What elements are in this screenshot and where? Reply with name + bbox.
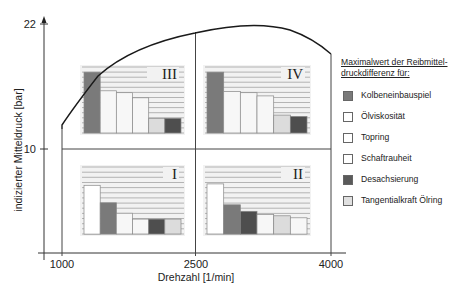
legend-label: Tangentialkraft Ölring [361,195,442,206]
swatch-kolbeneinbauspiel-icon [343,91,353,101]
x-tick-4000: 4000 [319,258,343,270]
panel-label-ii: II [293,166,303,182]
bar-schaftrauheit [133,219,149,234]
legend-label: Kolbeneinbauspiel [361,90,431,101]
bar-kolbeneinbauspiel [84,72,100,133]
legend-label: Desachsierung [361,174,418,185]
bar-desachsierung [240,211,257,234]
x-axis: 1000 2500 4000 Drehzahl [1/min] [38,253,346,283]
bar--lviskosit-t [207,184,224,234]
y-tick-22: 22 [24,18,36,30]
bar-topring [257,215,274,235]
bar-schaftrauheit [257,96,274,133]
legend-title: Maximalwert der Reibmittel- druckdiffere… [341,57,469,78]
legend-label: Schaftrauheit [361,153,412,164]
swatch-tangentialkraft-icon [343,196,353,206]
bar-desachsierung [149,219,165,234]
bar-tangentialkraft-lring [149,118,165,133]
bar-tangentialkraft-lring [274,115,291,133]
swatch-oelviskositaet-icon [343,112,353,122]
swatch-desachsierung-icon [343,175,353,185]
x-tick-2500: 2500 [184,258,208,270]
panel-label-iii: III [162,66,177,82]
legend-label: Ölviskosität [361,111,405,122]
bar-topring [116,93,132,133]
swatch-topring-icon [343,133,353,143]
legend-item-schaftrauheit: Schaftrauheit [341,148,469,169]
legend-item-tangentialkraft-oelring: Tangentialkraft Ölring [341,190,469,211]
legend-label: Topring [361,132,389,143]
legend-item-kolbeneinbauspiel: Kolbeneinbauspiel [341,85,469,106]
bar-kolbeneinbauspiel [207,72,224,133]
y-axis-arrow-icon [42,16,47,23]
bar-tangentialkraft-lring [165,219,181,234]
panel-ii: II [203,165,311,236]
bar-tangentialkraft-lring [274,216,291,234]
legend-title-line1: Maximalwert der Reibmittel- [341,57,469,68]
bar--lviskosit-t [100,91,116,133]
legend-item-desachsierung: Desachsierung [341,169,469,190]
bar--lviskosit-t [84,185,100,234]
y-axis-title: indizierter Mitteldruck [bar] [12,88,24,211]
bar-topring [116,213,132,234]
panel-label-i: I [172,166,177,182]
x-tick-1000: 1000 [50,258,74,270]
bar-desachsierung [165,118,181,133]
legend: Maximalwert der Reibmittel- druckdiffere… [341,57,469,211]
legend-item-topring: Topring [341,127,469,148]
bar-desachsierung [290,116,307,133]
panel-iii: III [80,65,185,135]
x-axis-title: Drehzahl [1/min] [158,271,235,283]
bar-topring [240,93,257,133]
legend-item-oelviskositaet: Ölviskosität [341,106,469,127]
legend-title-line2: druckdifferenz für: [341,68,469,79]
bar-kolbeneinbauspiel [100,203,116,234]
swatch-schaftrauheit-icon [343,154,353,164]
panel-label-iv: IV [287,66,303,82]
bar-schaftrauheit [133,98,149,133]
panel-iv: IV [203,65,311,135]
bar--lviskosit-t [224,91,241,133]
y-axis: 22 10 indizierter Mitteldruck [bar] [12,16,48,260]
y-tick-10: 10 [24,143,36,155]
bar-schaftrauheit [290,218,307,234]
bar-kolbeneinbauspiel [224,205,241,234]
panel-i: I [80,165,185,236]
